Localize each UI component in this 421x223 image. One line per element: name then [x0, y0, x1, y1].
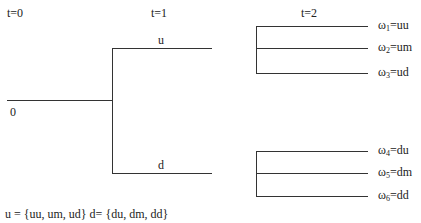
time-label-t1: t=1 [151, 7, 167, 19]
root-branch-line [7, 100, 112, 101]
outcome-label-1: ω1=uu [378, 19, 409, 35]
t2-lower-connector [256, 151, 257, 197]
outcome-line-1 [256, 26, 368, 27]
outcome-label-5: ω5=dm [378, 166, 412, 182]
time-label-t2: t=2 [301, 7, 317, 19]
down-branch-label: d [158, 159, 164, 171]
root-label: 0 [10, 106, 16, 118]
outcome-label-4: ω4=du [378, 144, 409, 160]
up-branch-line [112, 48, 212, 49]
outcome-line-5 [256, 173, 368, 174]
outcome-label-3: ω3=ud [378, 66, 409, 82]
outcome-label-6: ω6=dd [378, 189, 409, 205]
up-branch-label: u [158, 34, 164, 46]
t1-connector [112, 48, 113, 174]
time-label-t0: t=0 [7, 7, 23, 19]
caption: u = {uu, um, ud} d= {du, dm, dd} [5, 208, 168, 220]
down-branch-line [112, 173, 212, 174]
outcome-label-2: ω2=um [378, 41, 412, 57]
outcome-line-2 [256, 48, 368, 49]
outcome-line-4 [256, 151, 368, 152]
outcome-line-6 [256, 196, 368, 197]
t2-upper-connector [256, 26, 257, 74]
outcome-line-3 [256, 73, 368, 74]
